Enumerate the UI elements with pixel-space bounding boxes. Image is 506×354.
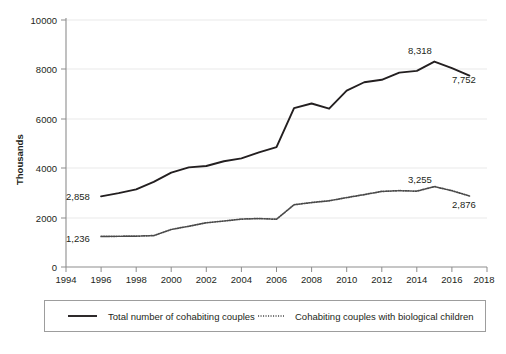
x-tick-label-2006: 2006 (266, 274, 287, 285)
y-tick-label-6000: 6000 (36, 114, 57, 125)
data-label-solid-start: 2,858 (66, 191, 90, 202)
x-tick-label-1996: 1996 (91, 274, 112, 285)
y-tick-label-10000: 10000 (31, 15, 57, 26)
line-chart: 10000 8000 6000 4000 2000 0 Thousands 19… (0, 0, 506, 354)
x-tick-label-2004: 2004 (231, 274, 252, 285)
x-tick-label-2002: 2002 (196, 274, 217, 285)
x-tick-label-2000: 2000 (161, 274, 182, 285)
x-tick-label-2014: 2014 (406, 274, 427, 285)
x-tick-label-1994: 1994 (55, 274, 76, 285)
y-tick-label-4000: 4000 (36, 163, 57, 174)
y-axis-title: Thousands (14, 134, 25, 185)
data-label-dotted-end: 2,876 (452, 199, 476, 210)
x-tick-label-2012: 2012 (371, 274, 392, 285)
x-tick-label-2008: 2008 (301, 274, 322, 285)
legend-label-cohabiting-couples-with-children: Cohabiting couples with biological child… (295, 311, 474, 322)
data-label-dotted-start: 1,236 (66, 233, 90, 244)
x-tick-label-2018: 2018 (473, 274, 494, 285)
data-label-solid-end: 7,752 (452, 74, 476, 85)
data-label-solid-peak: 8,318 (408, 45, 432, 56)
y-tick-label-0: 0 (52, 262, 57, 273)
x-tick-label-2010: 2010 (336, 274, 357, 285)
data-label-dotted-peak: 3,255 (408, 174, 432, 185)
x-tick-label-1998: 1998 (126, 274, 147, 285)
y-tick-label-2000: 2000 (36, 213, 57, 224)
x-tick-label-2016: 2016 (441, 274, 462, 285)
legend-label-total-cohabiting-couples: Total number of cohabiting couples (108, 311, 255, 322)
chart-figure: 10000 8000 6000 4000 2000 0 Thousands 19… (0, 0, 506, 354)
y-tick-label-8000: 8000 (36, 64, 57, 75)
